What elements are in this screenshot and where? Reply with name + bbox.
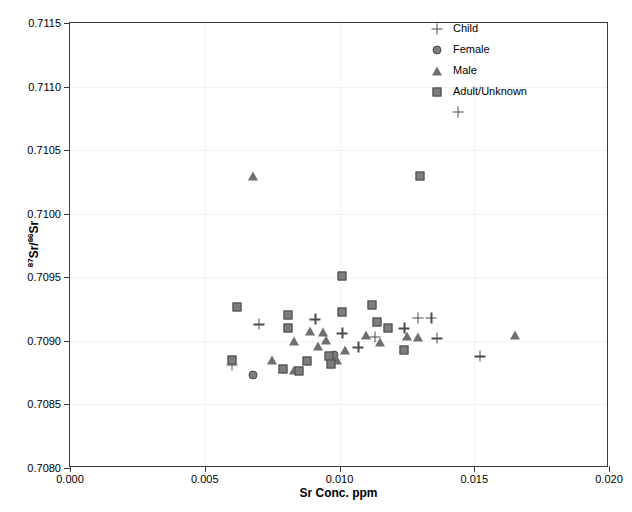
data-point-adult-unknown[interactable] xyxy=(327,359,336,368)
data-point-adult-unknown[interactable] xyxy=(284,311,293,320)
x-axis-tick-label: 0.020 xyxy=(595,474,623,485)
y-axis-tick-label: 0.7085 xyxy=(27,399,61,410)
data-point-male[interactable] xyxy=(402,331,412,340)
data-point-male[interactable] xyxy=(267,355,277,364)
square-marker xyxy=(433,87,442,96)
x-axis-tick-label: 0.000 xyxy=(56,474,84,485)
y-axis-tick-label: 0.7110 xyxy=(28,81,61,92)
data-point-adult-unknown[interactable] xyxy=(233,302,242,311)
gridline-vertical xyxy=(205,23,206,466)
data-point-adult-unknown[interactable] xyxy=(338,307,347,316)
y-axis-tick-label: 0.7100 xyxy=(27,208,61,219)
legend-label: Male xyxy=(453,65,477,76)
y-axis-tick xyxy=(64,87,70,88)
chart-legend: ChildFemaleMaleAdult/Unknown xyxy=(429,18,559,102)
data-point-adult-unknown[interactable] xyxy=(295,367,304,376)
gridline-horizontal xyxy=(70,404,607,405)
data-point-child[interactable] xyxy=(431,333,442,344)
data-point-adult-unknown[interactable] xyxy=(400,345,409,354)
y-axis-tick xyxy=(64,150,70,151)
legend-label: Female xyxy=(453,44,490,55)
circle-marker xyxy=(433,45,442,54)
y-axis-title: 87Sr/86Sr xyxy=(27,221,40,268)
data-point-male[interactable] xyxy=(361,330,371,339)
y-axis-tick-label: 0.7105 xyxy=(27,145,61,156)
data-point-child[interactable] xyxy=(453,107,464,118)
data-point-female[interactable] xyxy=(249,371,258,380)
y-axis-tick-label: 0.7090 xyxy=(27,335,61,346)
data-point-adult-unknown[interactable] xyxy=(416,171,425,180)
data-point-child[interactable] xyxy=(412,312,423,323)
legend-item-child[interactable]: Child xyxy=(429,18,559,39)
data-point-child[interactable] xyxy=(337,328,348,339)
legend-label: Child xyxy=(453,23,478,34)
data-point-male[interactable] xyxy=(510,330,520,339)
x-axis-title: Sr Conc. ppm xyxy=(69,487,608,499)
data-point-male[interactable] xyxy=(340,345,350,354)
gridline-horizontal xyxy=(70,214,607,215)
data-point-child[interactable] xyxy=(253,319,264,330)
x-axis-tick xyxy=(340,466,341,472)
data-point-adult-unknown[interactable] xyxy=(303,357,312,366)
y-axis-title-mid: Sr/ xyxy=(27,242,41,258)
data-point-male[interactable] xyxy=(321,335,331,344)
legend-item-adult-unknown[interactable]: Adult/Unknown xyxy=(429,81,559,102)
cross-marker xyxy=(432,23,443,34)
gridline-horizontal xyxy=(70,341,607,342)
y-axis-tick xyxy=(64,404,70,405)
data-point-adult-unknown[interactable] xyxy=(338,272,347,281)
data-point-male[interactable] xyxy=(289,336,299,345)
x-axis-tick xyxy=(70,466,71,472)
legend-item-male[interactable]: Male xyxy=(429,60,559,81)
legend-swatch xyxy=(429,85,445,99)
data-point-male[interactable] xyxy=(248,171,258,180)
y-axis-tick xyxy=(64,23,70,24)
legend-swatch xyxy=(429,64,445,78)
x-axis-tick xyxy=(205,466,206,472)
data-point-male[interactable] xyxy=(305,326,315,335)
y-axis-tick xyxy=(64,277,70,278)
scatter-chart-figure: 0.70800.70850.70900.70950.71000.71050.71… xyxy=(0,0,632,512)
x-axis-tick xyxy=(474,466,475,472)
y-axis-tick-label: 0.7115 xyxy=(28,18,61,29)
legend-item-female[interactable]: Female xyxy=(429,39,559,60)
data-point-child[interactable] xyxy=(310,314,321,325)
gridline-vertical xyxy=(340,23,341,466)
data-point-adult-unknown[interactable] xyxy=(384,324,393,333)
data-point-male[interactable] xyxy=(413,333,423,342)
data-point-adult-unknown[interactable] xyxy=(367,301,376,310)
legend-swatch xyxy=(429,22,445,36)
data-point-adult-unknown[interactable] xyxy=(227,355,236,364)
y-axis-tick-label: 0.7080 xyxy=(27,463,61,474)
data-point-adult-unknown[interactable] xyxy=(278,364,287,373)
data-point-child[interactable] xyxy=(474,351,485,362)
data-point-adult-unknown[interactable] xyxy=(284,324,293,333)
y-axis-title-sup-86: 86 xyxy=(26,233,35,242)
gridline-horizontal xyxy=(70,150,607,151)
y-axis-tick xyxy=(64,341,70,342)
y-axis-tick xyxy=(64,214,70,215)
triangle-marker xyxy=(432,66,442,75)
data-point-adult-unknown[interactable] xyxy=(373,317,382,326)
legend-swatch xyxy=(429,43,445,57)
y-axis-title-sup-87: 87 xyxy=(26,258,35,267)
data-point-child[interactable] xyxy=(426,312,437,323)
x-axis-tick-label: 0.015 xyxy=(460,474,488,485)
y-axis-tick-label: 0.7095 xyxy=(27,272,61,283)
data-point-male[interactable] xyxy=(375,338,385,347)
x-axis-tick-label: 0.005 xyxy=(191,474,219,485)
data-point-child[interactable] xyxy=(353,342,364,353)
x-axis-tick xyxy=(609,466,610,472)
legend-label: Adult/Unknown xyxy=(453,86,527,97)
y-axis-title-tail: Sr xyxy=(27,221,41,234)
x-axis-tick-label: 0.010 xyxy=(326,474,354,485)
